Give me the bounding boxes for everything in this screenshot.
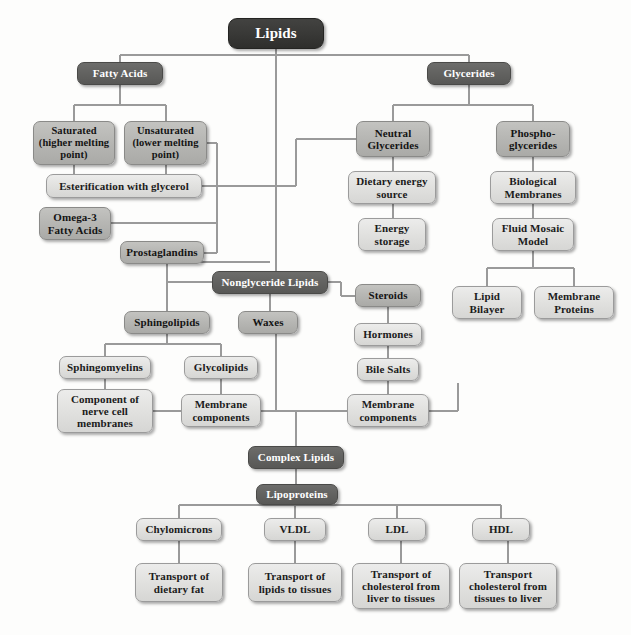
node-label-neutral_glycerides: Neutral Glycerides	[360, 127, 426, 152]
node-label-omega3: Omega-3 Fatty Acids	[43, 211, 107, 236]
node-nonglyceride_lipids[interactable]: Nonglyceride Lipids	[212, 271, 328, 294]
node-dietary_energy_source[interactable]: Dietary energy source	[348, 171, 436, 204]
node-label-chylomicrons: Chylomicrons	[140, 523, 218, 535]
node-label-waxes: Waxes	[242, 316, 294, 328]
node-transport_chol_tissues[interactable]: Transport cholesterol from tissues to li…	[459, 563, 557, 609]
node-label-sphingolipids: Sphingolipids	[128, 316, 206, 328]
node-label-esterification: Esterification with glycerol	[50, 180, 198, 192]
node-nerve_cell_membranes[interactable]: Component of nerve cell membranes	[57, 389, 153, 433]
node-fluid_mosaic_model[interactable]: Fluid Mosaic Model	[492, 218, 574, 251]
node-lipoproteins[interactable]: Lipoproteins	[256, 484, 338, 505]
node-label-saturated: Saturated (higher melting point)	[37, 125, 111, 160]
node-membrane_proteins[interactable]: Membrane Proteins	[534, 286, 614, 319]
node-hdl[interactable]: HDL	[472, 518, 530, 541]
node-prostaglandins[interactable]: Prostaglandins	[120, 241, 204, 264]
node-label-fluid_mosaic_model: Fluid Mosaic Model	[496, 222, 570, 247]
node-transport_dietary_fat[interactable]: Transport of dietary fat	[135, 563, 223, 602]
node-membrane_components_1[interactable]: Membrane components	[181, 394, 261, 427]
node-sphingolipids[interactable]: Sphingolipids	[124, 311, 210, 334]
concept-map-canvas: LipidsFatty AcidsSaturated (higher melti…	[0, 0, 631, 635]
node-saturated[interactable]: Saturated (higher melting point)	[33, 121, 115, 165]
node-phosphoglycerides[interactable]: Phospho- glycerides	[496, 121, 570, 157]
node-label-unsaturated: Unsaturated (lower melting point)	[128, 125, 203, 160]
node-label-nerve_cell_membranes: Component of nerve cell membranes	[61, 393, 149, 430]
node-unsaturated[interactable]: Unsaturated (lower melting point)	[124, 121, 207, 165]
node-label-vldl: VLDL	[268, 523, 322, 535]
node-label-transport_chol_liver: Transport of cholesterol from liver to t…	[356, 568, 446, 605]
node-label-dietary_energy_source: Dietary energy source	[352, 175, 432, 200]
node-ldl[interactable]: LDL	[368, 518, 426, 541]
node-neutral_glycerides[interactable]: Neutral Glycerides	[356, 121, 430, 157]
node-label-transport_lipids: Transport of lipids to tissues	[252, 570, 338, 595]
node-label-complex_lipids: Complex Lipids	[252, 451, 340, 463]
node-label-transport_dietary_fat: Transport of dietary fat	[139, 570, 219, 595]
node-label-ldl: LDL	[372, 523, 422, 535]
node-chylomicrons[interactable]: Chylomicrons	[136, 518, 222, 541]
node-label-hormones: Hormones	[358, 328, 418, 340]
node-label-hdl: HDL	[476, 523, 526, 535]
node-label-energy_storage: Energy storage	[362, 222, 422, 247]
node-lipids[interactable]: Lipids	[228, 18, 324, 49]
node-label-membrane_proteins: Membrane Proteins	[538, 290, 610, 315]
node-esterification[interactable]: Esterification with glycerol	[46, 174, 202, 198]
node-hormones[interactable]: Hormones	[354, 323, 422, 346]
node-label-membrane_components_1: Membrane components	[185, 398, 257, 423]
node-biological_membranes[interactable]: Biological Membranes	[490, 171, 576, 204]
node-sphingomyelins[interactable]: Sphingomyelins	[59, 356, 151, 379]
node-steroids[interactable]: Steroids	[355, 284, 421, 307]
node-label-biological_membranes: Biological Membranes	[494, 175, 572, 200]
node-label-membrane_components_2: Membrane components	[351, 398, 425, 423]
node-label-nonglyceride_lipids: Nonglyceride Lipids	[216, 276, 324, 288]
node-label-phosphoglycerides: Phospho- glycerides	[500, 127, 566, 152]
node-label-bile_salts: Bile Salts	[361, 363, 415, 375]
node-label-fatty_acids: Fatty Acids	[81, 67, 159, 79]
node-label-glycerides: Glycerides	[431, 67, 507, 79]
node-energy_storage[interactable]: Energy storage	[358, 218, 426, 251]
node-label-sphingomyelins: Sphingomyelins	[63, 361, 147, 373]
node-label-lipid_bilayer: Lipid Bilayer	[456, 290, 518, 315]
node-complex_lipids[interactable]: Complex Lipids	[248, 446, 344, 469]
node-label-lipids: Lipids	[232, 25, 320, 42]
node-transport_lipids[interactable]: Transport of lipids to tissues	[248, 563, 342, 602]
node-label-steroids: Steroids	[359, 289, 417, 301]
node-transport_chol_liver[interactable]: Transport of cholesterol from liver to t…	[352, 563, 450, 609]
node-label-glycolipids: Glycolipids	[188, 361, 254, 373]
node-label-lipoproteins: Lipoproteins	[260, 488, 334, 500]
node-fatty_acids[interactable]: Fatty Acids	[77, 62, 163, 85]
node-lipid_bilayer[interactable]: Lipid Bilayer	[452, 286, 522, 319]
node-membrane_components_2[interactable]: Membrane components	[347, 394, 429, 427]
node-label-transport_chol_tissues: Transport cholesterol from tissues to li…	[463, 568, 553, 605]
node-vldl[interactable]: VLDL	[264, 518, 326, 541]
node-glycolipids[interactable]: Glycolipids	[184, 356, 258, 379]
node-glycerides[interactable]: Glycerides	[427, 62, 511, 85]
node-omega3[interactable]: Omega-3 Fatty Acids	[39, 207, 111, 240]
node-waxes[interactable]: Waxes	[238, 311, 298, 334]
node-bile_salts[interactable]: Bile Salts	[357, 358, 419, 381]
node-label-prostaglandins: Prostaglandins	[124, 246, 200, 258]
